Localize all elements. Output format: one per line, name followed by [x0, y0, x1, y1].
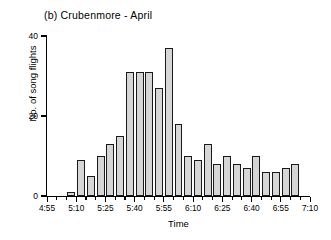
- x-axis-minor-tick-mark: [290, 197, 291, 200]
- bar: [184, 156, 192, 196]
- x-axis-minor-tick-mark: [261, 197, 262, 200]
- x-axis-minor-tick-mark: [183, 197, 184, 200]
- x-axis-minor-tick-mark: [154, 197, 155, 200]
- bar: [291, 164, 299, 196]
- bar: [194, 160, 202, 196]
- bar: [272, 172, 280, 196]
- x-axis-major-tick-mark: [105, 197, 106, 202]
- x-axis-label: Time: [47, 218, 310, 229]
- x-axis-tick-label: 5:40: [127, 203, 143, 213]
- x-axis-minor-tick-mark: [95, 197, 96, 200]
- bar: [67, 192, 75, 196]
- y-axis-tick-label: 20: [29, 111, 38, 121]
- x-axis-tick-label: 7:10: [302, 203, 318, 213]
- chart-title: (b) Crubenmore - April: [44, 9, 152, 21]
- x-axis-minor-tick-mark: [56, 197, 57, 200]
- x-axis-minor-tick-mark: [66, 197, 67, 200]
- x-axis-minor-tick-mark: [212, 197, 213, 200]
- x-axis-minor-tick-mark: [173, 197, 174, 200]
- x-axis-tick-label: 5:25: [97, 203, 113, 213]
- bar: [97, 156, 105, 196]
- x-axis-minor-tick-mark: [271, 197, 272, 200]
- bar: [223, 156, 231, 196]
- x-axis-minor-tick-mark: [124, 197, 125, 200]
- x-axis-minor-tick-mark: [241, 197, 242, 200]
- bar: [204, 144, 212, 196]
- bar: [136, 72, 144, 196]
- bar: [77, 160, 85, 196]
- x-axis-major-tick-mark: [76, 197, 77, 202]
- x-axis-minor-tick-mark: [144, 197, 145, 200]
- chart-figure: (b) Crubenmore - April No. of song fligh…: [0, 0, 331, 240]
- x-axis-minor-tick-mark: [202, 197, 203, 200]
- x-axis-minor-tick-mark: [85, 197, 86, 200]
- x-axis-major-tick-mark: [222, 197, 223, 202]
- x-axis-major-tick-mark: [163, 197, 164, 202]
- bar: [282, 168, 290, 196]
- bar: [252, 156, 260, 196]
- bar: [262, 172, 270, 196]
- bar: [165, 48, 173, 196]
- y-axis-label: No. of song flights: [27, 4, 38, 164]
- x-axis-tick-label: 4:55: [39, 203, 55, 213]
- x-axis-major-tick-mark: [310, 197, 311, 202]
- x-axis-major-tick-mark: [251, 197, 252, 202]
- y-axis-tick-mark: [41, 115, 46, 116]
- x-axis-tick-label: 6:55: [273, 203, 289, 213]
- bar: [145, 72, 153, 196]
- bar: [213, 164, 221, 196]
- x-axis-tick-label: 5:55: [156, 203, 172, 213]
- bar: [106, 144, 114, 196]
- x-axis-minor-tick-mark: [300, 197, 301, 200]
- x-axis-tick-label: 6:25: [214, 203, 230, 213]
- y-axis-tick-label: 0: [33, 191, 38, 201]
- x-axis-minor-tick-mark: [115, 197, 116, 200]
- x-axis-major-tick-mark: [47, 197, 48, 202]
- plot-area: [47, 36, 310, 196]
- x-axis-minor-tick-mark: [232, 197, 233, 200]
- bar: [116, 136, 124, 196]
- x-axis-major-tick-mark: [134, 197, 135, 202]
- bar: [126, 72, 134, 196]
- x-axis-major-tick-mark: [193, 197, 194, 202]
- bar: [243, 168, 251, 196]
- y-axis-tick-mark: [41, 35, 46, 36]
- y-axis-tick-label: 40: [29, 31, 38, 41]
- x-axis-major-tick-mark: [280, 197, 281, 202]
- bar: [155, 88, 163, 196]
- x-axis-tick-label: 6:40: [243, 203, 259, 213]
- bar: [175, 124, 183, 196]
- bar: [233, 164, 241, 196]
- y-axis-tick-mark: [41, 195, 46, 196]
- x-axis-tick-label: 6:10: [185, 203, 201, 213]
- bar: [87, 176, 95, 196]
- x-axis-tick-label: 5:10: [68, 203, 84, 213]
